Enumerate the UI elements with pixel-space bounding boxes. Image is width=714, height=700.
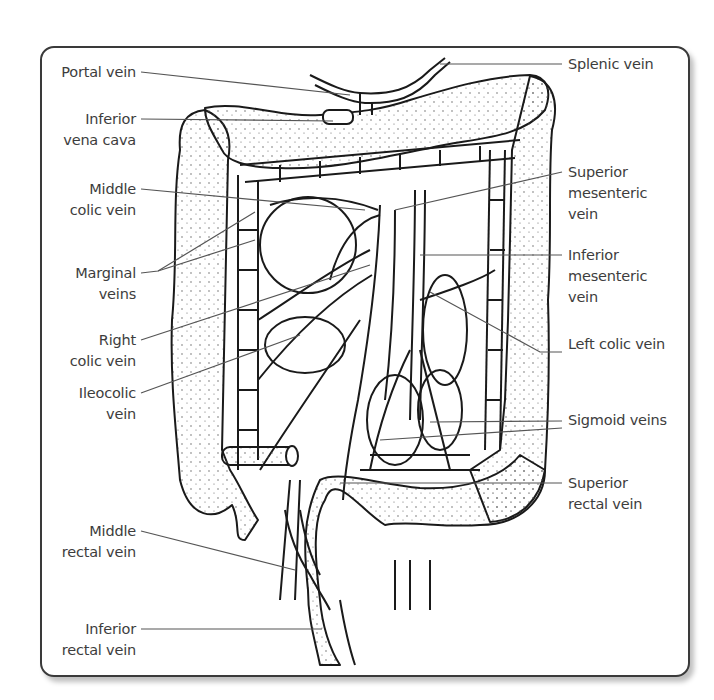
label-superior-mesenteric-vein: Superior mesenteric vein bbox=[568, 162, 686, 225]
label-left-colic-vein: Left colic vein bbox=[568, 334, 686, 355]
label-middle-colic-vein: Middle colic vein bbox=[40, 179, 136, 221]
label-inferior-rectal-vein: Inferior rectal vein bbox=[40, 619, 136, 661]
label-middle-rectal-vein: Middle rectal vein bbox=[40, 521, 136, 563]
label-marginal-veins: Marginal veins bbox=[40, 263, 136, 305]
label-right-colic-vein: Right colic vein bbox=[40, 330, 136, 372]
label-splenic-vein: Splenic vein bbox=[568, 54, 686, 75]
terminal-ileum bbox=[222, 446, 298, 466]
label-inferior-mesenteric-vein: Inferior mesenteric vein bbox=[568, 245, 686, 308]
label-ileocolic-vein: Ileocolic vein bbox=[40, 383, 136, 425]
label-sigmoid-veins: Sigmoid veins bbox=[568, 410, 686, 431]
label-superior-rectal-vein: Superior rectal vein bbox=[568, 473, 686, 515]
label-inferior-vena-cava: Inferior vena cava bbox=[40, 109, 136, 151]
label-portal-vein: Portal vein bbox=[40, 62, 136, 83]
